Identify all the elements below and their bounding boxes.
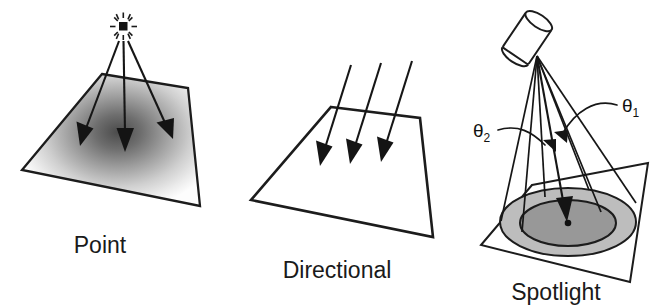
panel-caption-point: Point <box>74 232 127 258</box>
panel-caption-spotlight: Spotlight <box>511 279 601 305</box>
panel-caption-directional: Directional <box>283 257 392 283</box>
light-types-diagram: Point Directional <box>0 0 671 306</box>
footprint-center-dot <box>565 220 572 227</box>
figure-root: Point Directional <box>0 0 671 306</box>
